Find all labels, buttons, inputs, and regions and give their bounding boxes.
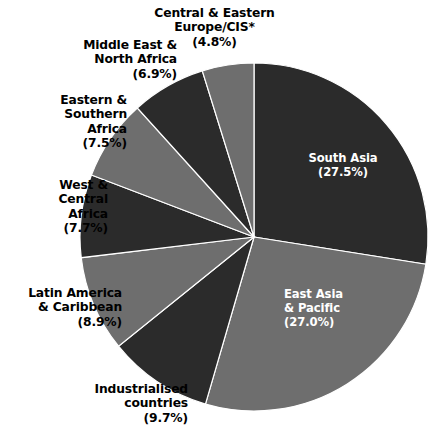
pie-slice-group (80, 63, 428, 411)
slice-label-latin-america-caribbean: Latin America & Caribbean (8.9%) (4, 286, 122, 329)
slice-label-eastern-southern-africa: Eastern & Southern Africa (7.5%) (23, 93, 127, 151)
slice-label-south-asia: South Asia (27.5%) (288, 152, 398, 180)
pie-chart: South Asia (27.5%) East Asia & Pacific (… (0, 0, 437, 434)
slice-label-east-asia-pacific: East Asia & Pacific (27.0%) (284, 288, 384, 330)
slice-label-industrialised-countries: Industrialised countries (9.7%) (48, 382, 188, 425)
slice-label-west-central-africa: West & Central Africa (7.7%) (20, 178, 108, 236)
slice-label-central-eastern-europe-cis: Central & Eastern Europe/CIS* (4.8%) (146, 6, 283, 49)
